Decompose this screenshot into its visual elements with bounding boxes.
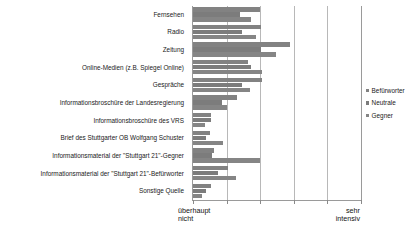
category-axis-labels: FernsehenRadioZeitungOnline-Medien (z.B.… xyxy=(0,6,188,200)
bar-group xyxy=(193,6,361,24)
bar xyxy=(193,131,210,135)
x-axis-tick xyxy=(227,200,228,204)
bar xyxy=(193,12,240,16)
bar-group xyxy=(193,165,361,183)
bar-group xyxy=(193,77,361,95)
bar xyxy=(193,176,236,180)
plot-area xyxy=(192,6,362,201)
chart-legend: BefürworterNeutraleGegner xyxy=(366,85,405,123)
legend-item[interactable]: Gegner xyxy=(366,110,405,121)
category-label: Informationsmaterial der "Stuttgart 21"-… xyxy=(0,170,188,177)
bar xyxy=(193,35,256,39)
bar xyxy=(193,113,211,117)
bar xyxy=(193,118,211,122)
bar xyxy=(193,88,250,92)
bar xyxy=(193,83,242,87)
bar-group xyxy=(193,129,361,147)
legend-item[interactable]: Befürworter xyxy=(366,85,405,96)
x-axis-tick xyxy=(294,200,295,204)
bar xyxy=(193,95,237,99)
category-label: Fernsehen xyxy=(0,11,188,18)
bar xyxy=(193,60,248,64)
legend-swatch-icon xyxy=(366,89,369,92)
bar xyxy=(193,25,261,29)
legend-label: Neutrale xyxy=(372,99,396,106)
bar-group xyxy=(193,182,361,200)
x-axis-tick xyxy=(327,200,328,204)
category-label: Zeitung xyxy=(0,46,188,53)
bar xyxy=(193,65,251,69)
bar xyxy=(193,153,212,157)
category-label: Informationsmaterial der "Stuttgart 21"-… xyxy=(0,152,188,159)
bar xyxy=(193,141,223,145)
bar xyxy=(193,194,202,198)
legend-item[interactable]: Neutrale xyxy=(366,98,405,109)
x-axis-right-caption: sehr intensiv xyxy=(300,207,360,224)
bar xyxy=(193,47,261,51)
legend-swatch-icon xyxy=(366,114,369,117)
legend-label: Befürworter xyxy=(372,87,405,94)
category-label: Sonstige Quelle xyxy=(0,187,188,194)
bar xyxy=(193,70,262,74)
bar xyxy=(193,123,205,127)
category-label: Brief des Stuttgarter OB Wolfgang Schust… xyxy=(0,134,188,141)
legend-swatch-icon xyxy=(366,101,369,104)
bar xyxy=(193,100,222,104)
bar xyxy=(193,17,251,21)
bar xyxy=(193,136,206,140)
bar xyxy=(193,189,206,193)
category-label: Radio xyxy=(0,28,188,35)
x-axis-left-caption: überhaupt nicht xyxy=(178,207,210,224)
bar-chart: FernsehenRadioZeitungOnline-Medien (z.B.… xyxy=(0,0,417,242)
bar xyxy=(193,166,228,170)
category-label: Online-Medien (z.B. Spiegel Online) xyxy=(0,64,188,71)
bar-group xyxy=(193,94,361,112)
bar xyxy=(193,7,260,11)
x-axis-tick xyxy=(260,200,261,204)
bar-group xyxy=(193,41,361,59)
bar xyxy=(193,158,260,162)
category-label: Informationsbroschüre der Landesregierun… xyxy=(0,99,188,106)
bar-group xyxy=(193,147,361,165)
bar xyxy=(193,148,214,152)
bar xyxy=(193,171,218,175)
bar xyxy=(193,30,242,34)
bar-group xyxy=(193,112,361,130)
bar xyxy=(193,52,276,56)
bar xyxy=(193,42,290,46)
bar xyxy=(193,78,262,82)
bar-group xyxy=(193,59,361,77)
legend-label: Gegner xyxy=(372,112,393,119)
bar xyxy=(193,105,227,109)
category-label: Gespräche xyxy=(0,81,188,88)
x-axis-tick xyxy=(193,200,194,204)
bar xyxy=(193,184,211,188)
x-axis-tick xyxy=(361,200,362,204)
bar-group xyxy=(193,24,361,42)
category-label: Informationsbroschüre des VRS xyxy=(0,117,188,124)
